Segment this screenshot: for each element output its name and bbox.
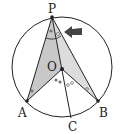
angle-mark-dot-P (49, 29, 52, 32)
angle-mark-circle-O-2 (71, 82, 74, 85)
point-O (60, 67, 64, 71)
arrow-icon (64, 26, 82, 38)
label-O: O (47, 60, 57, 74)
inscribed-angle-diagram: P O A B C (0, 0, 123, 134)
point-A (25, 99, 29, 103)
angle-mark-dot-O-2 (58, 80, 61, 83)
label-A: A (17, 106, 27, 120)
label-B: B (99, 106, 108, 120)
angle-mark-dot-O-1 (54, 78, 57, 81)
angle-mark-dot-A (30, 89, 33, 92)
angle-mark-circle-O-1 (67, 84, 70, 87)
label-P: P (48, 2, 56, 16)
label-C: C (68, 120, 77, 134)
point-B (96, 99, 100, 103)
